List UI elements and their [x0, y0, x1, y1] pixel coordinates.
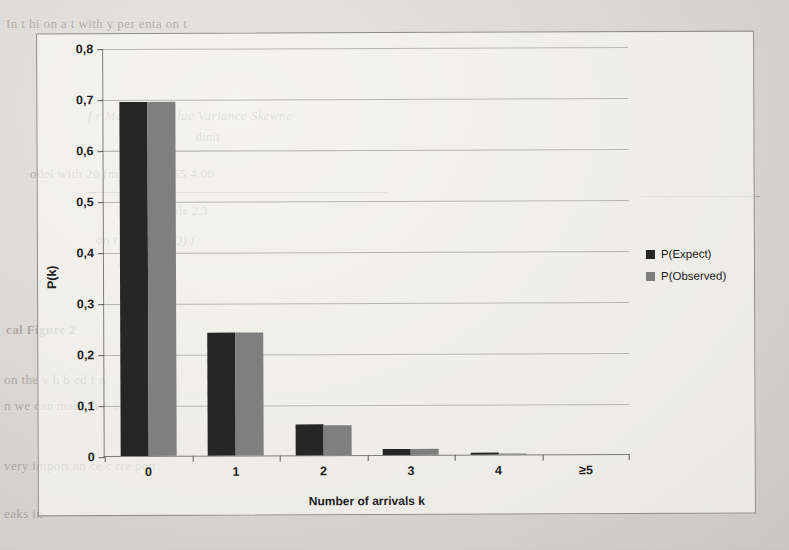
bar-category: 0: [103, 49, 192, 456]
y-tick-label: 0,5: [76, 195, 93, 209]
bar-group: 0 1 2 3: [103, 47, 630, 456]
y-tick-label: 0,1: [77, 399, 94, 413]
x-tick-label: 1: [233, 465, 240, 479]
x-tick-label: 0: [145, 465, 152, 479]
bar-observed[interactable]: [498, 453, 526, 454]
legend-swatch-icon: [646, 272, 655, 281]
y-tick-label: 0,8: [76, 42, 93, 56]
plot-area: 0,8 0,7 0,6 0,5 0,4 0,3 0,2 0,1 0: [102, 47, 630, 457]
y-tick-label: 0,4: [77, 246, 94, 260]
bar-category: 1: [191, 48, 280, 455]
x-tick-label: 2: [320, 464, 327, 478]
x-tick: [192, 456, 193, 462]
background-text-line: In t hi on a t with y per enta on t: [6, 16, 187, 32]
bar-observed[interactable]: [411, 449, 439, 455]
y-axis-title: P(k): [45, 265, 59, 289]
chart-container: P(k) 0,8 0,7 0,6 0,5 0,4 0,3 0,2 0,1 0: [36, 31, 756, 517]
bar-expect[interactable]: [470, 453, 498, 455]
bar-expect[interactable]: [207, 333, 235, 456]
x-tick-label: 4: [495, 464, 502, 478]
legend-item-expect[interactable]: P(Expect): [646, 248, 726, 260]
x-axis-title: Number of arrivals k: [309, 494, 425, 508]
x-tick: [542, 454, 543, 460]
y-tick-label: 0,3: [77, 297, 94, 311]
x-tick: [367, 455, 368, 461]
y-tick-label: 0,7: [76, 93, 93, 107]
bar-expect[interactable]: [383, 449, 411, 455]
legend-label: P(Expect): [661, 248, 712, 260]
y-tick-label: 0,6: [76, 144, 93, 158]
bar-expect[interactable]: [295, 425, 323, 456]
legend-label: P(Observed): [661, 270, 726, 282]
legend-item-observed[interactable]: P(Observed): [646, 270, 726, 282]
x-tick: [629, 454, 630, 460]
bar-observed[interactable]: [235, 333, 263, 456]
x-tick-label: ≥5: [579, 463, 593, 477]
bar-category: 4: [453, 47, 542, 454]
bar-observed[interactable]: [147, 102, 176, 456]
y-tick-label: 0,2: [77, 348, 94, 362]
chart-legend: P(Expect) P(Observed): [646, 248, 726, 292]
bar-observed[interactable]: [323, 425, 351, 455]
bar-category: ≥5: [541, 47, 630, 454]
x-tick: [455, 455, 456, 461]
x-tick: [105, 456, 106, 462]
bar-category: 3: [366, 48, 455, 455]
y-tick-label: 0: [88, 450, 95, 464]
legend-swatch-icon: [646, 250, 655, 259]
bar-expect[interactable]: [119, 102, 148, 457]
x-tick-label: 3: [408, 464, 415, 478]
x-tick: [280, 455, 281, 461]
bar-category: 2: [278, 48, 367, 455]
